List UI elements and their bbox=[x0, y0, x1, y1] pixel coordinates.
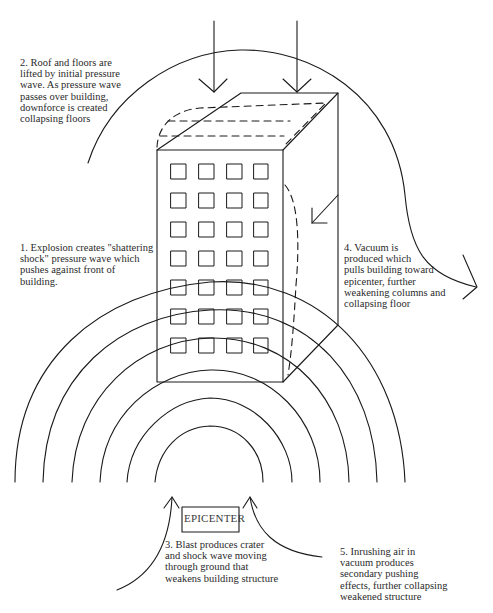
annotation-step-1: 1. Explosion creates "shattering shock" … bbox=[20, 242, 160, 287]
annotation-step-3: 3. Blast produces crater and shock wave … bbox=[165, 539, 305, 584]
lifted-floors-dashed bbox=[157, 103, 326, 375]
annotation-step-5: 5. Inrushing air in vacuum produces seco… bbox=[340, 546, 480, 602]
annotation-step-4: 4. Vacuum is produced which pulls buildi… bbox=[344, 242, 474, 309]
downforce-arrows bbox=[199, 21, 311, 92]
annotation-step-2: 2. Roof and floors are lifted by initial… bbox=[20, 57, 150, 124]
building-windows bbox=[171, 164, 268, 353]
vacuum-arrow bbox=[312, 195, 338, 223]
epicenter-label: EPICENTER bbox=[184, 512, 245, 524]
